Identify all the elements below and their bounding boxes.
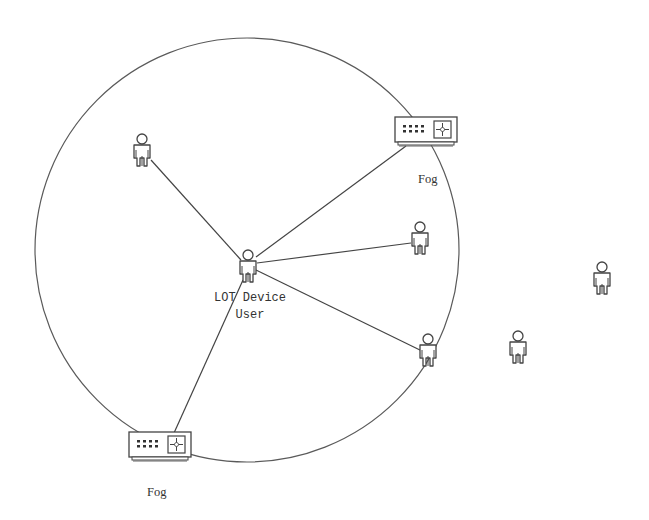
network-diagram [0,0,649,520]
edge-user-top-left [151,160,241,260]
center-node-label: LOT Device User [207,290,293,324]
fog-label-top: Fog [418,172,437,187]
person-icon-outside-2 [510,331,526,363]
center-label-line1: LOT Device [207,290,293,307]
person-icon-top-left [134,134,150,166]
fog-device-icon-top [395,117,457,146]
center-label-line2: User [207,307,293,324]
fog-label-bottom: Fog [147,485,166,500]
person-icon-outside-1 [594,262,610,294]
fog-device-icon-bottom [129,432,191,461]
person-icon-lower-right [420,334,436,366]
person-icon-center [240,250,256,282]
edge-fog-top [256,146,406,257]
person-icon-right [412,222,428,254]
edge-user-right [257,243,411,263]
